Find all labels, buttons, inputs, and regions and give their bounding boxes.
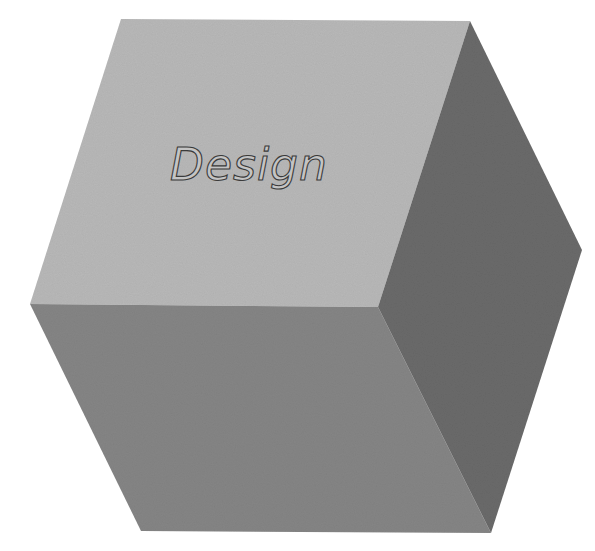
cube-diagram: Design xyxy=(0,0,595,551)
cube-label: Design xyxy=(170,139,328,190)
cube xyxy=(30,19,582,533)
